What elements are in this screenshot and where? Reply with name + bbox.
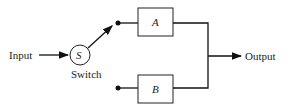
switch-arm-arrow bbox=[88, 26, 112, 48]
combine-lines bbox=[173, 23, 208, 88]
block-b-label: B bbox=[152, 83, 159, 95]
switch-symbol: S bbox=[76, 49, 82, 61]
block-a-label: A bbox=[151, 16, 159, 28]
input-label: Input bbox=[9, 49, 32, 61]
output-label: Output bbox=[245, 50, 276, 62]
switch-label: Switch bbox=[71, 68, 102, 80]
diagram-canvas: Input S Switch A B Output bbox=[0, 0, 291, 105]
